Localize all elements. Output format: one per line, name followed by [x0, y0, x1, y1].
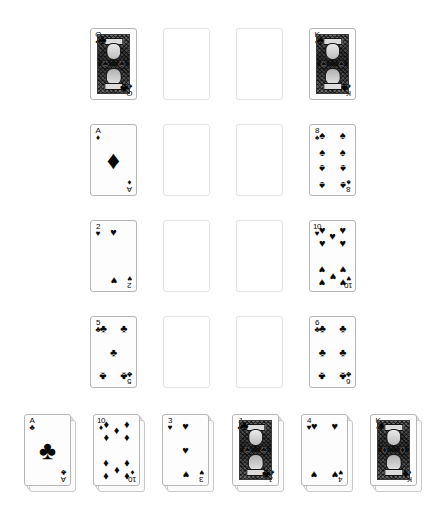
tableau-pile[interactable]: J♣J♣♣♣♣♣: [232, 414, 285, 493]
suit-clubs-icon: ♣: [100, 323, 107, 334]
suit-clubs-icon: ♣: [260, 445, 267, 455]
suit-hearts-icon: ♥: [331, 469, 338, 480]
card-pip-area: ♣: [34, 420, 61, 480]
card-pip-area: ♣♣♣♣♣♣: [319, 322, 346, 382]
suit-clubs-icon: ♣: [102, 59, 109, 69]
empty-card-slot[interactable]: [236, 220, 283, 292]
suit-spades-icon: ♠: [319, 146, 325, 157]
empty-card-slot[interactable]: [163, 28, 210, 100]
suit-hearts-icon: ♥: [319, 277, 326, 288]
suit-spades-icon: ♠: [319, 163, 325, 174]
suit-hearts-icon: ♥: [319, 263, 326, 274]
playing-card[interactable]: 2♥2♥♥♥: [90, 220, 137, 292]
tableau-pile[interactable]: 4♥4♥♥♥♥♥: [301, 414, 354, 493]
suit-clubs-icon: ♣: [319, 323, 326, 334]
tableau-pile[interactable]: 3♥3♥♥♥♥: [162, 414, 215, 493]
playing-card[interactable]: 10♦10♦♦♦♦♦♦♦♦♦♦♦: [93, 414, 140, 486]
playing-card[interactable]: A♦A♦♦: [90, 124, 137, 196]
suit-hearts-icon: ♥: [319, 238, 326, 249]
suit-hearts-icon: ♥: [182, 445, 189, 456]
suit-diamonds-icon: ♦: [124, 432, 130, 443]
playing-card[interactable]: K♠K♠♠♠♠♠: [309, 28, 356, 100]
suit-hearts-icon: ♥: [319, 224, 326, 235]
playing-card[interactable]: 6♣6♣♣♣♣♣♣♣: [309, 316, 356, 388]
suit-hearts-icon: ♥: [110, 275, 117, 286]
suit-diamonds-icon: ♦: [103, 432, 109, 443]
suit-diamonds-icon: ♦: [103, 418, 109, 429]
suit-hearts-icon: ♥: [311, 421, 318, 432]
playing-card[interactable]: J♣J♣♣♣♣♣: [232, 414, 279, 486]
empty-card-slot[interactable]: [163, 316, 210, 388]
card-pip-area: ♥♥♥: [172, 420, 199, 480]
suit-spades-icon: ♠: [340, 146, 346, 157]
portrait-head: [386, 429, 402, 446]
suit-clubs-icon: ♣: [319, 371, 326, 382]
playing-card[interactable]: 5♣5♣♣♣♣♣♣: [90, 316, 137, 388]
suit-diamonds-icon: ♦: [402, 468, 409, 481]
suit-diamonds-icon: ♦: [124, 418, 130, 429]
suit-diamonds-icon: ♦: [382, 445, 387, 455]
card-pip-area: ♥♥♥♥♥♥♥♥♥♥: [319, 226, 346, 286]
card-pip-area: ♣♣♣♣♣: [100, 322, 127, 382]
playing-card[interactable]: Q♣Q♣♣♣♣♣: [90, 28, 137, 100]
portrait-head: [325, 43, 341, 60]
playing-card[interactable]: A♣A♣♣: [24, 414, 71, 486]
suit-diamonds-icon: ♦: [124, 471, 130, 482]
suit-clubs-icon: ♣: [240, 419, 249, 432]
crown-shape-mirrored: [384, 469, 403, 476]
suit-hearts-icon: ♥: [110, 227, 117, 238]
suit-spades-icon: ♠: [319, 180, 325, 191]
suit-clubs-icon: ♣: [319, 347, 326, 358]
playing-card[interactable]: K♦K♦♦♦♦♦: [370, 414, 417, 486]
suit-diamonds-icon: ♦: [107, 147, 120, 173]
suit-hearts-icon: ♥: [339, 238, 346, 249]
playing-card[interactable]: 10♥10♥♥♥♥♥♥♥♥♥♥♥: [309, 220, 356, 292]
card-pip-area: ♦: [100, 130, 127, 190]
suit-clubs-icon: ♣: [120, 82, 129, 95]
playing-card[interactable]: 4♥4♥♥♥♥♥: [301, 414, 348, 486]
card-pip-area: ♠♠♠♠♠♠♠♠: [319, 130, 346, 190]
suit-spades-icon: ♠: [340, 180, 346, 191]
suit-spades-icon: ♠: [340, 129, 346, 140]
suit-spades-icon: ♠: [340, 163, 346, 174]
tableau-pile[interactable]: A♣A♣♣: [24, 414, 77, 493]
crown-shape-mirrored: [323, 83, 342, 90]
suit-clubs-icon: ♣: [339, 347, 346, 358]
empty-card-slot[interactable]: [236, 316, 283, 388]
card-table: Q♣Q♣♣♣♣♣K♠K♠♠♠♠♠A♦A♦♦8♠8♠♠♠♠♠♠♠♠♠2♥2♥♥♥1…: [0, 0, 447, 526]
suit-hearts-icon: ♥: [339, 224, 346, 235]
suit-clubs-icon: ♣: [39, 437, 56, 463]
suit-spades-icon: ♠: [339, 59, 344, 69]
suit-clubs-icon: ♣: [98, 33, 107, 46]
suit-hearts-icon: ♥: [182, 421, 189, 432]
suit-clubs-icon: ♣: [118, 59, 125, 69]
empty-card-slot[interactable]: [163, 220, 210, 292]
empty-card-slot[interactable]: [163, 124, 210, 196]
suit-clubs-icon: ♣: [110, 347, 117, 358]
suit-hearts-icon: ♥: [329, 270, 336, 281]
suit-clubs-icon: ♣: [262, 468, 271, 481]
suit-diamonds-icon: ♦: [103, 471, 109, 482]
playing-card[interactable]: 3♥3♥♥♥♥: [162, 414, 209, 486]
suit-spades-icon: ♠: [317, 33, 324, 46]
suit-diamonds-icon: ♦: [124, 457, 130, 468]
suit-clubs-icon: ♣: [120, 323, 127, 334]
suit-spades-icon: ♠: [341, 82, 348, 95]
suit-hearts-icon: ♥: [311, 469, 318, 480]
suit-clubs-icon: ♣: [339, 323, 346, 334]
suit-hearts-icon: ♥: [339, 263, 346, 274]
suit-hearts-icon: ♥: [331, 421, 338, 432]
suit-hearts-icon: ♥: [182, 469, 189, 480]
suit-diamonds-icon: ♦: [400, 445, 405, 455]
empty-card-slot[interactable]: [236, 28, 283, 100]
suit-diamonds-icon: ♦: [114, 425, 120, 436]
suit-clubs-icon: ♣: [120, 371, 127, 382]
playing-card[interactable]: 8♠8♠♠♠♠♠♠♠♠♠: [309, 124, 356, 196]
tableau-pile[interactable]: K♦K♦♦♦♦♦: [370, 414, 423, 493]
suit-hearts-icon: ♥: [329, 231, 336, 242]
suit-diamonds-icon: ♦: [114, 464, 120, 475]
card-pip-area: ♥♥♥♥: [311, 420, 338, 480]
empty-card-slot[interactable]: [236, 124, 283, 196]
tableau-pile[interactable]: 10♦10♦♦♦♦♦♦♦♦♦♦♦: [93, 414, 146, 493]
suit-clubs-icon: ♣: [339, 371, 346, 382]
